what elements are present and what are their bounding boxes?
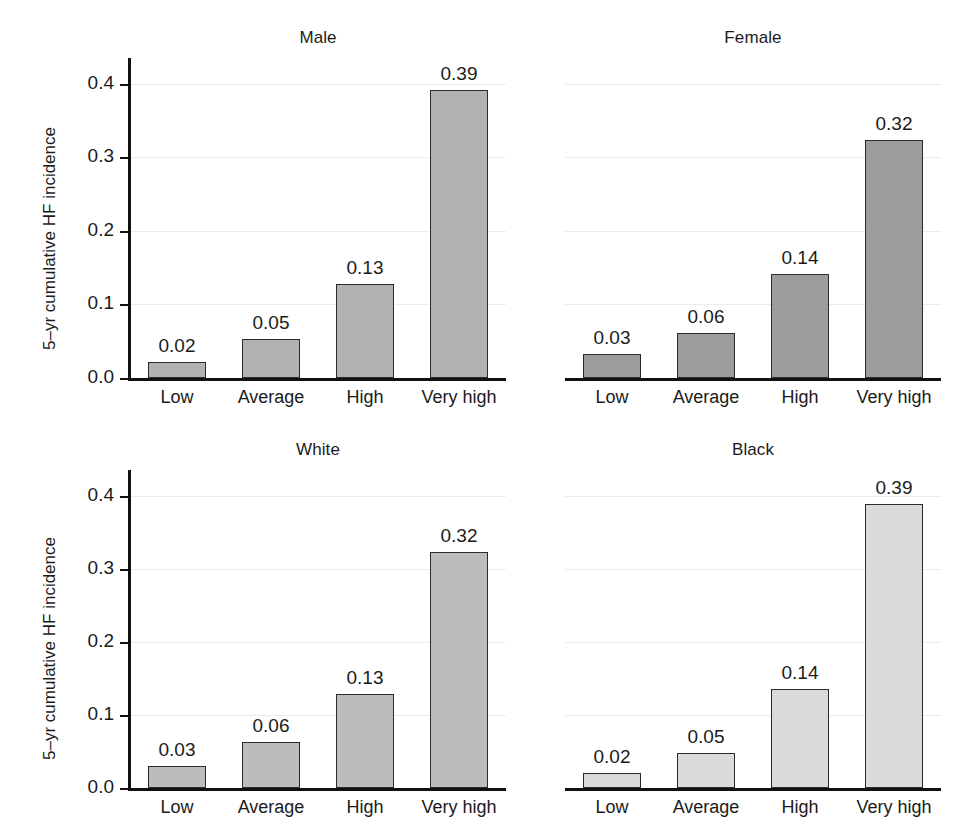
chart-panel-black: Black0.02Low0.05Average0.14High0.39Very … (0, 0, 979, 830)
x-axis-category-label: Very high (841, 797, 947, 818)
bar (583, 773, 641, 788)
panel-title: Black (565, 440, 941, 460)
x-axis-line (565, 788, 941, 791)
x-axis-category-label: Low (559, 797, 665, 818)
x-axis-category-label: Average (653, 797, 759, 818)
x-axis-category-label: High (747, 797, 853, 818)
bar-value-label: 0.02 (565, 746, 659, 768)
bar-value-label: 0.14 (753, 662, 847, 684)
bar (865, 504, 923, 788)
bar-value-label: 0.39 (847, 477, 941, 499)
bar (771, 689, 829, 788)
figure-panel-grid: Male0.00.10.20.30.45–yr cumulative HF in… (0, 0, 979, 830)
bar-value-label: 0.05 (659, 726, 753, 748)
bar (677, 753, 735, 788)
